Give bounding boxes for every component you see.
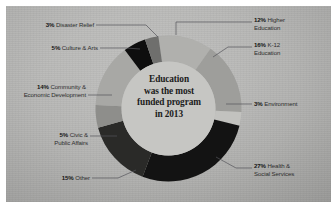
label-culture-arts: 5% Culture & Arts bbox=[0, 44, 98, 52]
label-higher-education: 12% Higher Education bbox=[254, 16, 285, 31]
label-other-name: Other bbox=[75, 174, 90, 181]
label-culture-arts-name: Culture & Arts bbox=[62, 44, 98, 51]
label-health-social-pct: 27% bbox=[254, 162, 266, 169]
label-community-econ-pct: 14% bbox=[37, 83, 49, 90]
label-environment-pct: 3% bbox=[254, 100, 263, 107]
label-health-social-name1: Health & bbox=[268, 162, 291, 169]
label-health-social: 27% Health & Social Services bbox=[254, 162, 294, 177]
label-environment-name: Environment bbox=[264, 100, 297, 107]
leader-higher-education bbox=[176, 22, 252, 35]
label-community-econ: 14% Community & Economic Development bbox=[0, 83, 86, 98]
label-community-econ-name2: Economic Development bbox=[24, 91, 86, 98]
leader-disaster-relief bbox=[96, 25, 158, 37]
center-line-1: Education bbox=[113, 74, 225, 86]
chart-page: 12% Higher Education 16% K-12 Education … bbox=[0, 0, 333, 209]
label-health-social-name2: Social Services bbox=[254, 170, 294, 177]
label-community-econ-name1: Community & bbox=[51, 83, 86, 90]
label-environment: 3% Environment bbox=[254, 100, 297, 108]
label-civic-public-name1: Civic & bbox=[70, 131, 88, 138]
center-line-4: in 2013 bbox=[113, 109, 225, 121]
label-civic-public: 5% Civic & Public Affairs bbox=[0, 131, 88, 146]
label-other: 15% Other bbox=[0, 174, 90, 182]
label-k12-education: 16% K-12 Education bbox=[254, 41, 280, 56]
label-disaster-relief-name: Disaster Relief bbox=[56, 21, 94, 28]
label-culture-arts-pct: 5% bbox=[52, 44, 61, 51]
label-higher-education-pct: 12% bbox=[254, 16, 266, 23]
center-callout-text: Education was the most funded program in… bbox=[113, 74, 225, 120]
label-disaster-relief-pct: 3% bbox=[46, 21, 55, 28]
leader-other bbox=[92, 170, 136, 178]
label-disaster-relief: 3% Disaster Relief bbox=[0, 21, 94, 29]
label-civic-public-name2: Public Affairs bbox=[54, 139, 88, 146]
label-higher-education-name2: Education bbox=[254, 24, 280, 31]
label-civic-public-pct: 5% bbox=[60, 131, 69, 138]
center-line-3: funded program bbox=[113, 97, 225, 109]
label-k12-education-name1: K-12 bbox=[268, 41, 280, 48]
label-higher-education-name1: Higher bbox=[268, 16, 285, 23]
center-line-2: was the most bbox=[113, 86, 225, 98]
label-k12-education-name2: Education bbox=[254, 49, 280, 56]
label-k12-education-pct: 16% bbox=[254, 41, 266, 48]
label-other-pct: 15% bbox=[62, 174, 74, 181]
